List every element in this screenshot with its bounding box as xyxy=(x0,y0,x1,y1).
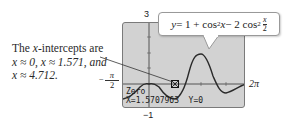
calculator-status: ZeroX=1.5707963 Y=0 xyxy=(126,87,203,105)
minus-sign: − xyxy=(99,75,104,84)
eq-exponent: 2 xyxy=(257,20,261,28)
equation-callout: y = 1 + cos2 x − 2 cos2 x2 xyxy=(158,12,280,36)
fraction-denominator: 2 xyxy=(263,25,267,33)
annotation-text: -intercepts are xyxy=(38,42,103,54)
eq-part: = 1 + cos xyxy=(176,18,217,30)
fraction-denominator: 2 xyxy=(110,80,114,90)
annotation-text: The xyxy=(12,42,33,54)
callout-tail xyxy=(201,35,223,51)
mode-label: Zero xyxy=(126,87,203,96)
y-max-label: 3 xyxy=(144,9,149,19)
annotation-line-2: x ≈ 0, x ≈ 1.571, and xyxy=(12,56,116,70)
annotation-line-1: The x-intercepts are xyxy=(12,42,116,56)
y-min-label: −1 xyxy=(143,110,153,120)
x-max-label: 2π xyxy=(249,78,259,89)
x-min-label: − π 2 xyxy=(105,71,119,90)
eq-fraction: x2 xyxy=(263,16,267,33)
eq-part: − 2 cos xyxy=(225,18,257,30)
coordinate-readout: X=1.5707963 Y=0 xyxy=(126,96,203,105)
